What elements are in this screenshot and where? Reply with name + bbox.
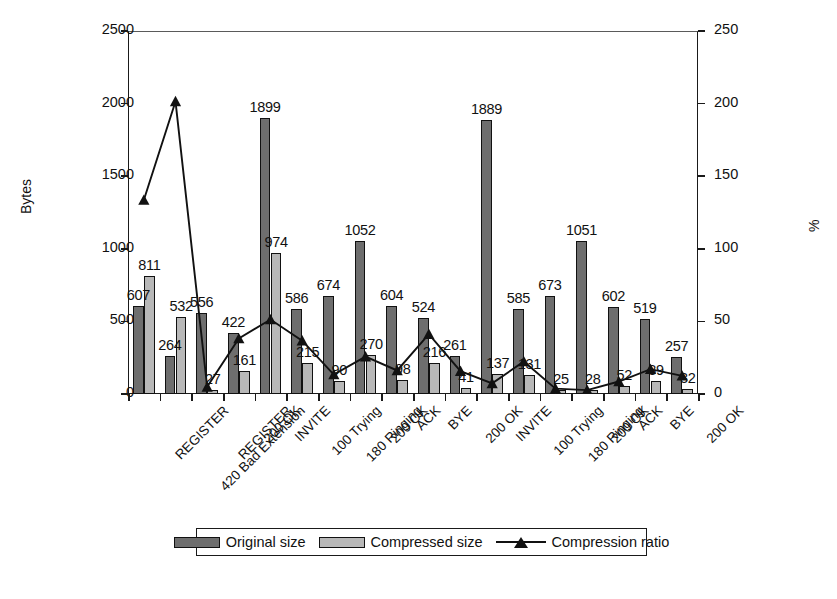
legend-label-original-size: Original size xyxy=(226,534,306,550)
bar-value-label-compressed: 52 xyxy=(609,367,639,383)
bar-value-label-original: 1051 xyxy=(563,222,599,238)
bar-original-size xyxy=(640,319,650,394)
bar-compressed-size xyxy=(492,374,502,394)
bar-original-size xyxy=(513,309,523,394)
x-category-label: REGISTER xyxy=(172,403,231,462)
x-category-label: BYE xyxy=(666,403,696,433)
y-tick-mark-right-50 xyxy=(698,321,705,323)
bar-value-label-compressed: 974 xyxy=(261,234,291,250)
y-tick-mark-left-1500 xyxy=(121,175,128,177)
bar-compressed-size xyxy=(302,363,312,394)
bar-value-label-compressed: 90 xyxy=(324,362,354,378)
bar-value-label-compressed: 28 xyxy=(577,371,607,387)
bar-value-label-compressed: 27 xyxy=(197,371,227,387)
bar-compressed-size xyxy=(524,375,534,394)
y-tick-label-right-200: 200 xyxy=(714,94,738,110)
bar-value-label-original: 261 xyxy=(437,337,473,353)
bar-value-label-compressed: 89 xyxy=(641,362,671,378)
y-tick-label-right-150: 150 xyxy=(714,166,738,182)
bar-compressed-size xyxy=(176,317,186,394)
bar-compressed-size xyxy=(334,381,344,394)
chart-container: Bytes % 05001000150020002500 05010015020… xyxy=(0,0,837,599)
x-tick-mark xyxy=(160,394,162,401)
legend-swatch-original-size xyxy=(174,537,220,548)
bar-value-label-compressed: 32 xyxy=(672,370,702,386)
bar-original-size xyxy=(355,241,365,394)
bar-original-size xyxy=(323,296,333,394)
x-tick-mark xyxy=(318,394,320,401)
x-tick-mark xyxy=(476,394,478,401)
bar-value-label-compressed: 811 xyxy=(134,257,164,273)
x-tick-mark xyxy=(571,394,573,401)
bar-value-label-original: 1899 xyxy=(247,99,283,115)
legend-swatch-compressed-size xyxy=(319,537,365,548)
bar-value-label-original: 674 xyxy=(310,277,346,293)
legend-line-marker-icon xyxy=(496,536,546,548)
y-tick-label-right-50: 50 xyxy=(714,311,730,327)
legend-item-compressed-size: Compressed size xyxy=(319,534,483,550)
bar-value-label-compressed: 41 xyxy=(451,369,481,385)
bar-value-label-original: 422 xyxy=(215,314,251,330)
bar-compressed-size xyxy=(461,388,471,394)
bar-value-label-original: 524 xyxy=(405,299,441,315)
legend-label-compressed-size: Compressed size xyxy=(371,534,483,550)
y-tick-label-right-0: 0 xyxy=(714,384,722,400)
x-tick-mark xyxy=(603,394,605,401)
bar-compressed-size xyxy=(429,363,439,394)
y-tick-mark-right-200 xyxy=(698,103,705,105)
bar-compressed-size xyxy=(587,390,597,394)
bar-original-size xyxy=(260,118,270,394)
bar-value-label-compressed: 131 xyxy=(514,356,544,372)
bar-compressed-size xyxy=(271,253,281,394)
bar-series-layer: 6078112645325562742216118999745862156749… xyxy=(128,31,698,394)
y-tick-mark-left-1000 xyxy=(121,248,128,250)
bar-value-label-original: 673 xyxy=(532,277,568,293)
y-tick-mark-right-100 xyxy=(698,248,705,250)
y-tick-mark-right-150 xyxy=(698,175,705,177)
legend-label-compression-ratio: Compression ratio xyxy=(552,534,670,550)
bar-compressed-size xyxy=(239,371,249,394)
y-tick-mark-left-2500 xyxy=(121,30,128,32)
bar-value-label-original: 556 xyxy=(183,294,219,310)
x-tick-mark xyxy=(540,394,542,401)
x-tick-mark xyxy=(286,394,288,401)
bar-original-size xyxy=(133,306,143,394)
x-tick-mark xyxy=(381,394,383,401)
bar-value-label-compressed: 137 xyxy=(482,355,512,371)
bar-original-size xyxy=(165,356,175,394)
y-tick-label-right-250: 250 xyxy=(714,21,738,37)
bar-value-label-original: 264 xyxy=(152,337,188,353)
bar-value-label-original: 257 xyxy=(658,338,694,354)
bar-compressed-size xyxy=(207,390,217,394)
x-category-label: BYE xyxy=(445,403,475,433)
x-tick-mark xyxy=(128,394,130,401)
y-axis-left-title: Bytes xyxy=(18,179,34,214)
bar-value-label-compressed: 161 xyxy=(229,352,259,368)
y-tick-mark-left-0 xyxy=(121,393,128,395)
y-tick-mark-right-250 xyxy=(698,30,705,32)
legend-item-original-size: Original size xyxy=(174,534,306,550)
x-category-label: 200 OK xyxy=(704,403,747,446)
bar-value-label-compressed: 98 xyxy=(387,361,417,377)
x-tick-mark xyxy=(223,394,225,401)
bar-compressed-size xyxy=(397,380,407,394)
bar-compressed-size xyxy=(651,381,661,394)
x-tick-mark xyxy=(445,394,447,401)
bar-compressed-size xyxy=(682,389,692,394)
x-tick-mark xyxy=(635,394,637,401)
bar-value-label-original: 1052 xyxy=(342,222,378,238)
chart-legend: Original size Compressed size Compressio… xyxy=(196,528,647,556)
x-tick-mark xyxy=(508,394,510,401)
bar-value-label-original: 607 xyxy=(120,287,156,303)
bar-original-size xyxy=(386,306,396,394)
x-tick-mark xyxy=(191,394,193,401)
bar-compressed-size xyxy=(619,386,629,394)
bar-compressed-size xyxy=(366,355,376,394)
x-tick-mark xyxy=(666,394,668,401)
bar-value-label-compressed: 270 xyxy=(356,336,386,352)
legend-item-compression-ratio: Compression ratio xyxy=(496,534,670,550)
y-tick-mark-left-2000 xyxy=(121,103,128,105)
bar-value-label-original: 519 xyxy=(627,300,663,316)
x-tick-mark xyxy=(698,394,700,401)
x-tick-mark xyxy=(413,394,415,401)
